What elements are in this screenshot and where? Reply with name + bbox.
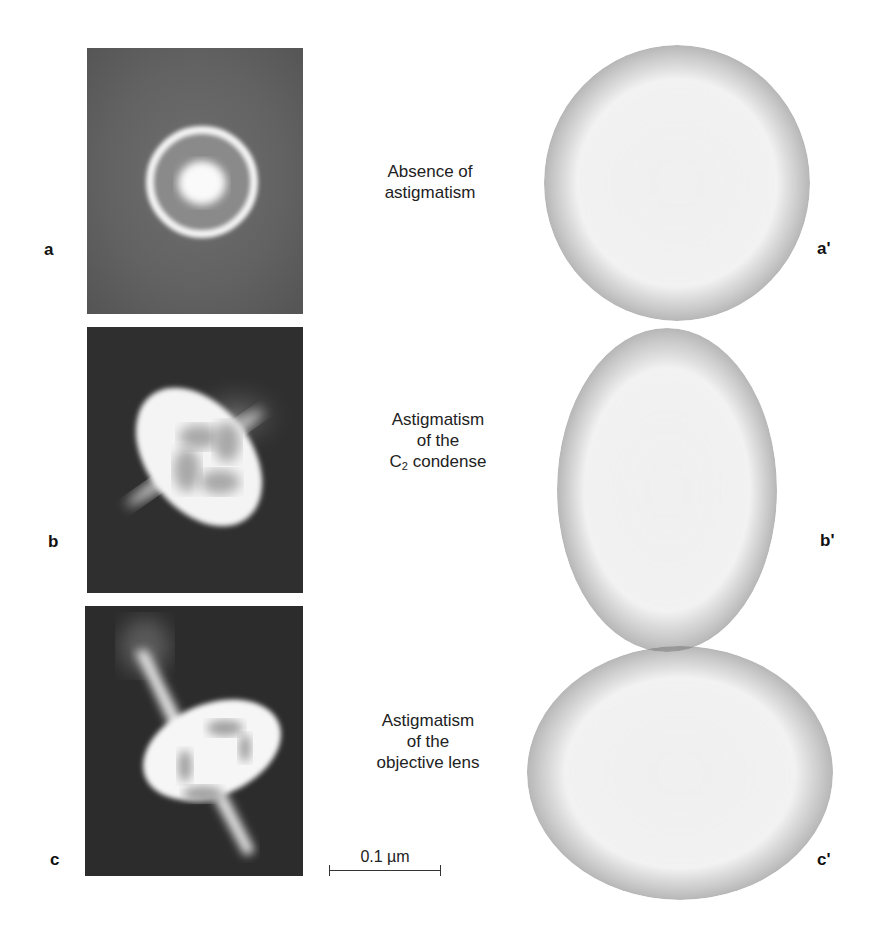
panel-a-prime-image	[531, 31, 824, 335]
panel-b-prime-image	[546, 312, 788, 668]
panel-label-a-prime: a'	[817, 239, 831, 259]
panel-label-c-prime: c'	[817, 850, 831, 870]
kikuchi-patterns	[0, 0, 879, 936]
panel-c-prime-image	[512, 633, 849, 912]
panel-label-b-prime: b'	[820, 531, 834, 551]
